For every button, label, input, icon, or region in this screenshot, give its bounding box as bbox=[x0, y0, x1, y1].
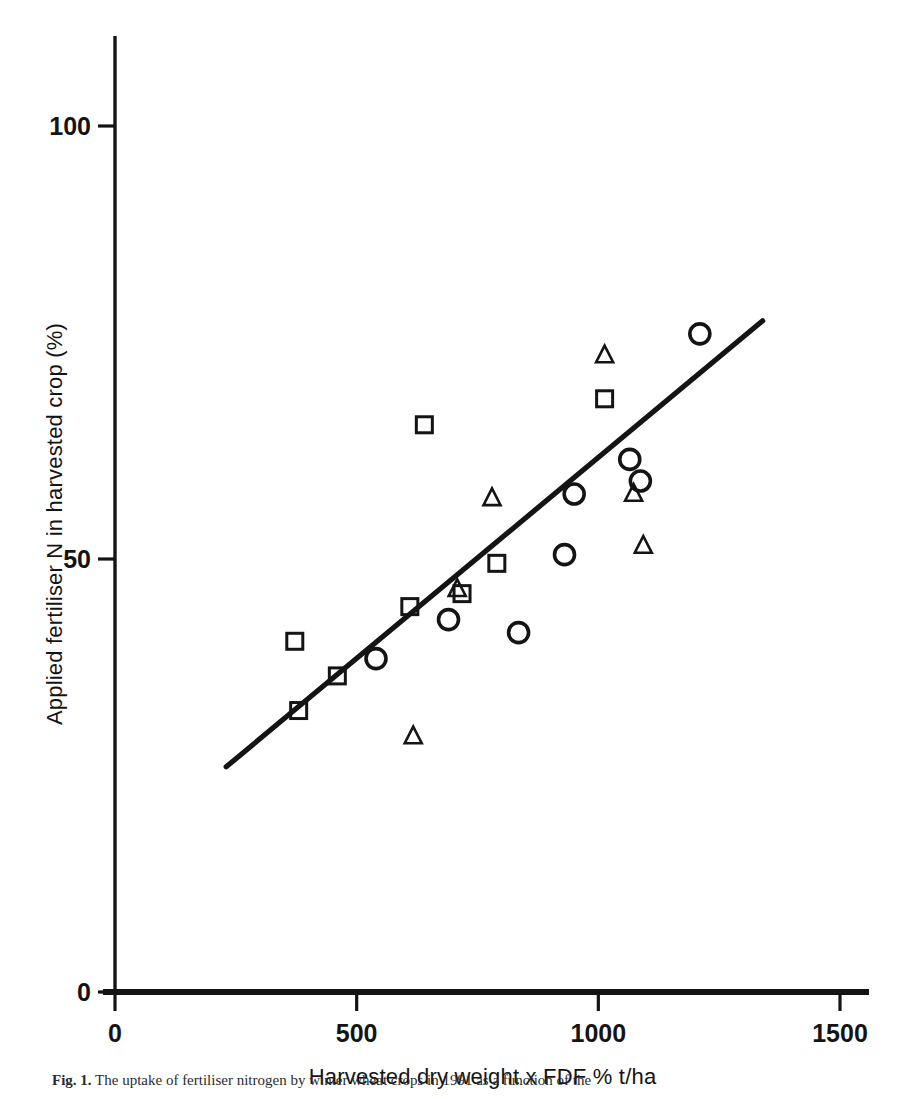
data-point-circle-4 bbox=[564, 484, 584, 504]
y-tick-label-0: 0 bbox=[77, 978, 91, 1006]
x-tick-label-1500: 1500 bbox=[812, 1019, 868, 1047]
data-point-triangle-5 bbox=[635, 536, 652, 553]
data-point-circle-3 bbox=[555, 545, 575, 565]
data-point-circle-7 bbox=[690, 324, 710, 344]
figure-caption: Fig. 1. The uptake of fertiliser nitroge… bbox=[52, 1070, 892, 1092]
y-tick-label-50: 50 bbox=[63, 545, 91, 573]
data-point-triangle-0 bbox=[405, 727, 422, 744]
data-point-circle-1 bbox=[439, 610, 459, 630]
y-tick-label-100: 100 bbox=[49, 112, 91, 140]
figure-caption-text: The uptake of fertiliser nitrogen by win… bbox=[95, 1072, 591, 1088]
data-point-square-0 bbox=[287, 633, 303, 649]
data-point-triangle-3 bbox=[596, 346, 613, 363]
data-point-circle-6 bbox=[630, 471, 650, 491]
x-tick-label-0: 0 bbox=[108, 1019, 122, 1047]
data-point-circle-2 bbox=[509, 623, 529, 643]
data-point-square-4 bbox=[416, 417, 432, 433]
figure-container: 050100050010001500Harvested dry weight x… bbox=[0, 0, 911, 1099]
data-point-square-6 bbox=[489, 555, 505, 571]
scatter-plot: 050100050010001500Harvested dry weight x… bbox=[0, 0, 911, 1099]
x-tick-label-500: 500 bbox=[336, 1019, 378, 1047]
data-point-circle-0 bbox=[366, 649, 386, 669]
data-point-circle-5 bbox=[620, 449, 640, 469]
figure-number: Fig. 1. bbox=[52, 1072, 92, 1088]
x-tick-label-1000: 1000 bbox=[571, 1019, 627, 1047]
regression-line bbox=[226, 321, 763, 767]
data-point-square-7 bbox=[597, 391, 613, 407]
data-point-triangle-2 bbox=[484, 488, 501, 505]
y-axis-title: Applied fertiliser N in harvested crop (… bbox=[42, 323, 67, 725]
